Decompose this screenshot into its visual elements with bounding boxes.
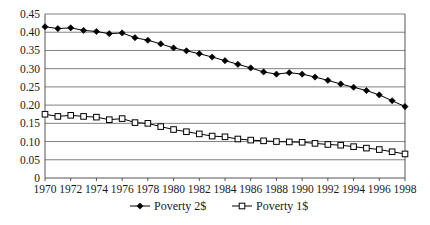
series-point — [81, 114, 87, 120]
y-axis-tick-label: 0.15 — [20, 117, 40, 129]
chart-legend: Poverty 2$Poverty 1$ — [130, 199, 308, 213]
series-point — [184, 129, 190, 135]
x-axis-tick-label: 1982 — [188, 183, 211, 195]
x-axis-tick-label: 1998 — [394, 183, 417, 195]
series-point — [222, 134, 228, 140]
legend-entry-2[interactable]: Poverty 1$ — [232, 199, 308, 213]
series-point — [364, 145, 370, 151]
x-axis-tick-label: 1970 — [34, 183, 57, 195]
x-axis-tick-label: 1986 — [239, 183, 262, 195]
y-axis-tick-label: 0.10 — [20, 136, 40, 148]
series-point — [351, 144, 357, 150]
series-point — [261, 138, 267, 144]
series-point — [68, 113, 74, 119]
series-point — [402, 151, 408, 157]
legend-marker — [137, 203, 143, 209]
x-axis-tick-label: 1988 — [265, 183, 288, 195]
series-point — [338, 142, 344, 148]
series-point — [286, 139, 292, 145]
series-point — [55, 114, 61, 120]
plot-area-rect — [45, 14, 405, 178]
y-axis-tick-label: 0.30 — [20, 63, 40, 75]
series-point — [106, 117, 112, 123]
series-point — [389, 149, 395, 155]
y-axis-tick-label: 0.35 — [20, 44, 40, 56]
y-axis-tick-label: 0.20 — [20, 99, 40, 111]
series-point — [145, 121, 151, 127]
series-point — [248, 137, 254, 143]
x-axis-tick-label: 1980 — [162, 183, 185, 195]
series-point — [132, 120, 138, 126]
x-axis-tick-label: 1972 — [59, 183, 82, 195]
series-point — [42, 111, 48, 117]
plot-background — [45, 14, 405, 178]
y-axis-tick-label: 0.45 — [20, 8, 40, 20]
y-axis-tick-label: 0.40 — [20, 26, 40, 38]
series-point — [158, 124, 164, 130]
y-axis-tick-label: 0.05 — [20, 154, 40, 166]
chart-canvas: 00.050.100.150.200.250.300.350.400.45 19… — [0, 0, 430, 225]
series-point — [325, 142, 331, 148]
series-point — [376, 147, 382, 153]
x-axis-tick-label: 1974 — [85, 183, 108, 195]
y-axis-tick-label: 0.25 — [20, 81, 40, 93]
legend-label: Poverty 2$ — [154, 199, 206, 213]
y-axis-tick-labels: 00.050.100.150.200.250.300.350.400.45 — [20, 8, 40, 184]
series-point — [274, 139, 280, 145]
x-axis-tick-label: 1978 — [136, 183, 159, 195]
legend-entry-1[interactable]: Poverty 2$ — [130, 199, 206, 213]
series-point — [171, 127, 177, 133]
x-axis-tick-labels: 1970197219741976197819801982198419861988… — [34, 183, 417, 195]
legend-marker — [239, 203, 245, 209]
series-point — [209, 133, 215, 139]
series-point — [94, 114, 100, 120]
series-point — [119, 116, 125, 122]
x-axis-tick-label: 1976 — [111, 183, 134, 195]
series-point — [235, 136, 241, 142]
x-axis-tick-label: 1994 — [342, 183, 365, 195]
legend-label: Poverty 1$ — [256, 199, 308, 213]
poverty-line-chart: 00.050.100.150.200.250.300.350.400.45 19… — [0, 0, 430, 225]
series-point — [312, 141, 318, 147]
x-axis-tick-label: 1984 — [214, 183, 237, 195]
x-axis-tick-label: 1990 — [291, 183, 314, 195]
x-axis-tick-label: 1992 — [316, 183, 339, 195]
x-axis-tick-label: 1996 — [368, 183, 391, 195]
series-point — [299, 139, 305, 145]
series-point — [196, 131, 202, 137]
